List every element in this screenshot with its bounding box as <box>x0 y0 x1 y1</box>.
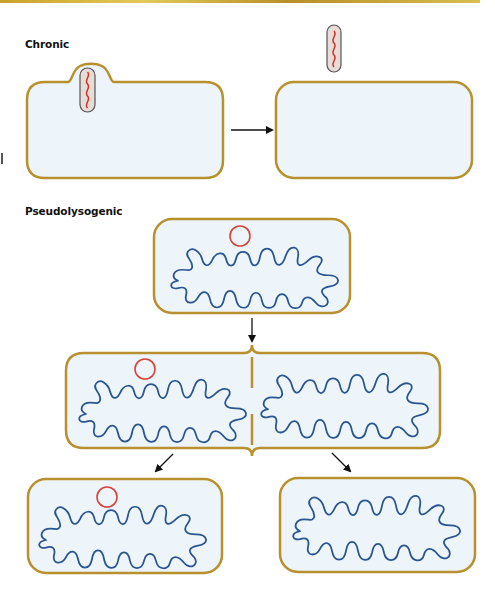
chronic-cell-infected <box>27 64 223 178</box>
pseudolysogenic-dividing-cell <box>66 345 440 456</box>
daughter-cell-without-phage <box>280 478 475 572</box>
diagram-canvas <box>0 0 495 597</box>
phage-capsule-icon <box>80 68 95 112</box>
phage-capsule-icon <box>327 25 341 72</box>
pseudolysogenic-cell-initial <box>154 219 350 313</box>
cell-wall <box>28 479 222 573</box>
cell-wall <box>154 219 350 313</box>
arrow-icon <box>332 453 350 471</box>
arrow-icon <box>156 454 173 471</box>
chronic-cell-after-release <box>276 25 472 178</box>
daughter-cell-with-phage <box>28 479 222 573</box>
cell-wall <box>276 82 472 178</box>
cell-wall <box>27 64 223 178</box>
